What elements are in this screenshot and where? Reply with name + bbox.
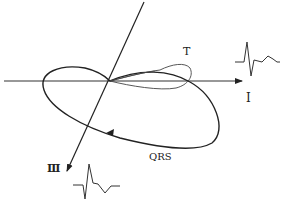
lead-iii-label: Ⅲ [47,162,60,175]
lead-i-ecg-trace [235,42,280,76]
lead-iii-ecg-trace [73,164,120,199]
t-loop-label: T [183,45,191,58]
vectorcardiogram-diagram: T I QRS Ⅲ [0,0,285,211]
lead-i-label: I [246,91,251,105]
qrs-loop [43,67,219,148]
qrs-loop-label: QRS [149,151,172,162]
lead-iii-axis [67,2,144,171]
